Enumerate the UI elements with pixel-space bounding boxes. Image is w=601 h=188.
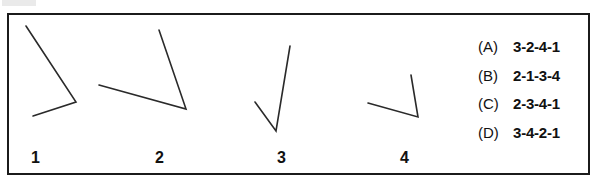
option-value-d: 3-4-2-1 — [513, 124, 560, 141]
angle-number-2: 2 — [155, 150, 164, 166]
answer-option-c[interactable]: (C) 2-3-4-1 — [478, 95, 586, 124]
answer-option-d[interactable]: (D) 3-4-2-1 — [478, 124, 586, 153]
angle-number-1: 1 — [31, 150, 40, 166]
option-value-c: 2-3-4-1 — [513, 95, 560, 112]
scan-artifact — [2, 0, 36, 6]
option-value-b: 2-1-3-4 — [513, 67, 560, 84]
angle-number-4: 4 — [400, 150, 409, 166]
answer-options: (A) 3-2-4-1 (B) 2-1-3-4 (C) 2-3-4-1 (D) … — [478, 38, 586, 152]
answer-option-a[interactable]: (A) 3-2-4-1 — [478, 38, 586, 67]
answer-option-b[interactable]: (B) 2-1-3-4 — [478, 67, 586, 96]
option-letter-a: (A) — [478, 38, 513, 55]
question-figure: 1 2 3 4 (A) 3-2-4-1 (B) 2-1-3-4 (C) 2-3-… — [0, 0, 601, 188]
option-letter-c: (C) — [478, 95, 513, 112]
angle-number-3: 3 — [277, 150, 286, 166]
option-letter-b: (B) — [478, 67, 513, 84]
option-letter-d: (D) — [478, 124, 513, 141]
option-value-a: 3-2-4-1 — [513, 38, 560, 55]
